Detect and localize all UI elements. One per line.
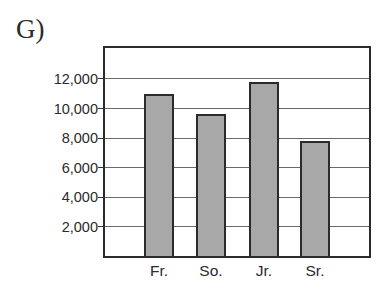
bar-sr [300, 141, 330, 256]
y-tick-label: 6,000 [62, 160, 98, 176]
y-tick-mark [98, 226, 105, 227]
y-tick-label: 2,000 [62, 219, 98, 235]
bar-fr [144, 94, 174, 256]
plot-area [103, 46, 371, 258]
y-tick-mark [98, 108, 105, 109]
y-tick-label: 4,000 [62, 189, 98, 205]
bar-jr [249, 82, 279, 256]
x-tick-label: So. [199, 262, 222, 280]
y-tick-mark [98, 138, 105, 139]
y-tick-mark [98, 197, 105, 198]
y-tick-label: 10,000 [54, 101, 98, 117]
bar-so [196, 114, 226, 256]
y-tick-mark [98, 167, 105, 168]
x-tick-label: Jr. [256, 262, 272, 280]
y-tick-label: 8,000 [62, 130, 98, 146]
y-tick-mark [98, 78, 105, 79]
panel-label: G) [16, 14, 45, 45]
x-tick-label: Sr. [306, 262, 325, 280]
gridline [105, 78, 369, 79]
y-tick-label: 12,000 [54, 71, 98, 87]
x-tick-label: Fr. [150, 262, 168, 280]
